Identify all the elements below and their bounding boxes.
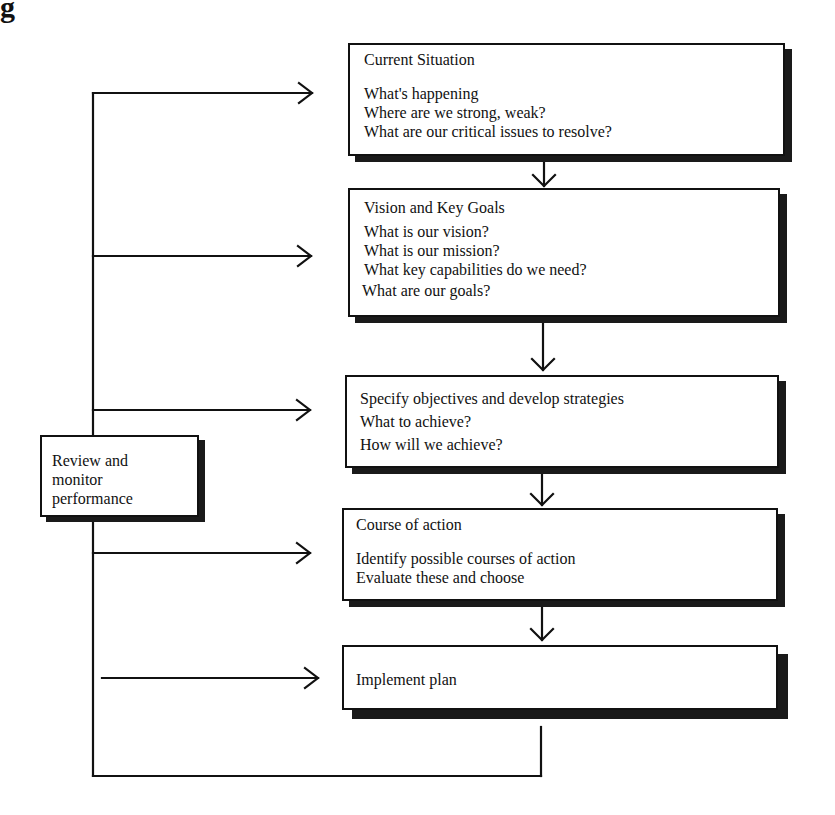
review-line-1: Review and	[52, 451, 197, 470]
step-item: Evaluate these and choose	[356, 568, 776, 587]
step-title: Specify objectives and develop strategie…	[360, 389, 777, 408]
review-monitor-box: Review and monitor performance	[40, 435, 199, 517]
step-current-situation: Current Situation What's happening Where…	[348, 43, 785, 156]
step-item: What to achieve?	[360, 412, 777, 431]
step-objectives-strategies: Specify objectives and develop strategie…	[345, 375, 779, 468]
step-item: Identify possible courses of action	[356, 549, 776, 568]
step-item: What's happening	[364, 84, 783, 103]
step-item: What are our goals?	[362, 281, 778, 300]
step-title: Current Situation	[364, 50, 783, 69]
step-title: Course of action	[356, 515, 776, 534]
step-item: What is our vision?	[364, 222, 778, 241]
step-title: Implement plan	[356, 670, 776, 689]
step-item: What are our critical issues to resolve?	[364, 122, 783, 141]
step-item: What key capabilities do we need?	[364, 260, 778, 279]
step-title: Vision and Key Goals	[364, 198, 778, 217]
step-item: How will we achieve?	[360, 435, 777, 454]
step-course-of-action: Course of action Identify possible cours…	[342, 508, 778, 601]
step-vision-key-goals: Vision and Key Goals What is our vision?…	[348, 188, 780, 317]
review-line-3: performance	[52, 489, 197, 508]
review-line-2: monitor	[52, 470, 197, 489]
step-item: Where are we strong, weak?	[364, 103, 783, 122]
step-item: What is our mission?	[364, 241, 778, 260]
step-implement-plan: Implement plan	[342, 645, 778, 710]
